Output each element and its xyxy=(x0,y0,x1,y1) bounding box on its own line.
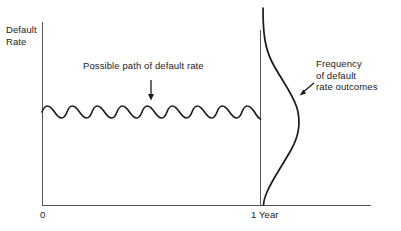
default-rate-figure: Default Rate Possible path of default ra… xyxy=(0,0,401,231)
tick-label-one-year: 1 Year xyxy=(251,209,279,221)
axis-label-y: Default Rate xyxy=(6,24,37,47)
possible-path-arrow-head xyxy=(148,94,154,101)
tick-label-zero: 0 xyxy=(40,209,45,221)
annotation-frequency-of-outcomes: Frequency of default rate outcomes xyxy=(316,58,378,93)
annotation-possible-path: Possible path of default rate xyxy=(83,60,204,72)
wavy-default-rate-path xyxy=(42,106,261,119)
figure-canvas xyxy=(0,0,401,231)
default-rate-distribution-curve xyxy=(263,8,299,205)
